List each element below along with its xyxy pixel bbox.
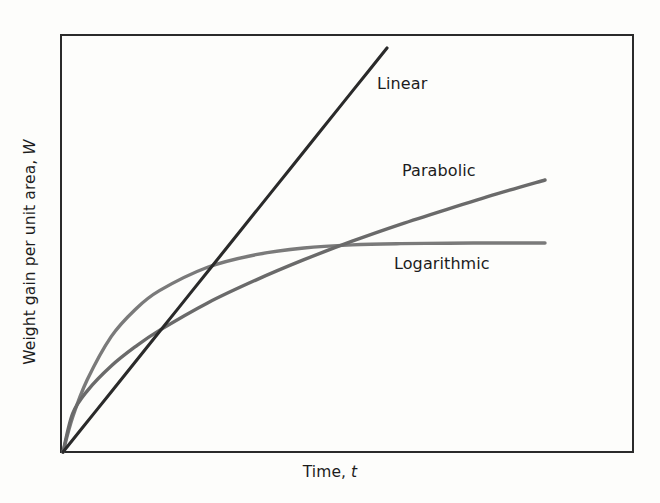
x-axis-label-text: Time,	[303, 463, 346, 481]
x-axis-label: Time, t	[0, 463, 660, 481]
y-axis-label-container: Weight gain per unit area, W	[0, 0, 60, 503]
curve-label-linear: Linear	[377, 74, 427, 93]
x-axis-label-symbol: t	[351, 463, 357, 481]
y-axis-label-text: Weight gain per unit area,	[21, 159, 39, 364]
curve-label-parabolic: Parabolic	[402, 161, 476, 180]
curve-label-logarithmic: Logarithmic	[394, 254, 490, 273]
y-axis-label: Weight gain per unit area, W	[21, 139, 39, 365]
plot-area	[0, 0, 660, 503]
y-axis-label-symbol: W	[21, 139, 39, 154]
figure-background	[0, 0, 660, 503]
oxidation-kinetics-figure: Linear Parabolic Logarithmic Time, t Wei…	[0, 0, 660, 503]
